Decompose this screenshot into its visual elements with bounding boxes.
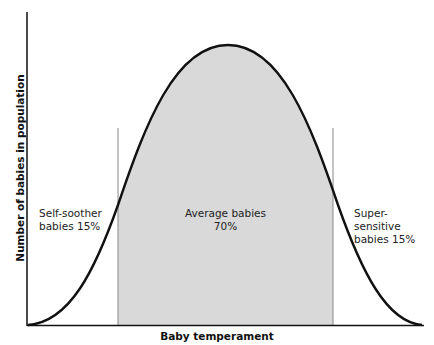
self-soother-label: Self-soother babies 15% <box>39 207 102 233</box>
x-axis-label: Baby temperament <box>0 330 434 342</box>
y-axis-label: Number of babies in population <box>14 68 26 268</box>
average-region-fill <box>28 45 422 325</box>
super-sensitive-line2: babies 15% <box>354 233 434 246</box>
bell-curve-chart <box>0 0 434 345</box>
average-label: Average babies 70% <box>118 207 333 233</box>
self-soother-line2: babies 15% <box>39 220 102 233</box>
average-line2: 70% <box>118 220 333 233</box>
average-line1: Average babies <box>118 207 333 220</box>
super-sensitive-line1: Super-sensitive <box>354 207 434 233</box>
self-soother-line1: Self-soother <box>39 207 102 220</box>
super-sensitive-label: Super-sensitive babies 15% <box>354 207 434 246</box>
